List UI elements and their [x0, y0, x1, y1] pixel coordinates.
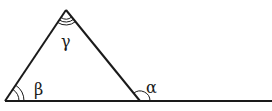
angle-label-beta: β [34, 82, 43, 98]
angle-label-gamma: γ [61, 34, 71, 50]
triangle-side-right [66, 10, 140, 101]
triangle-diagram: γ β α [0, 0, 272, 111]
angle-label-alpha: α [146, 80, 157, 96]
